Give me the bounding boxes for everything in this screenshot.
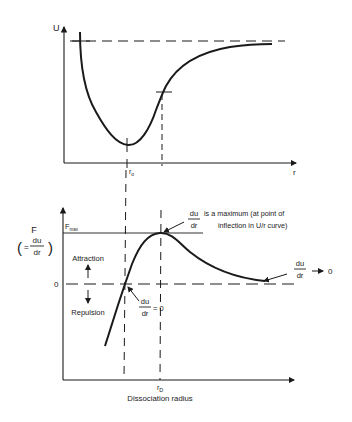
force-chart: F ( = du dr ) Fmax 0 Attraction Repulsio… xyxy=(17,208,333,403)
zero-force-frac-num: du xyxy=(141,297,149,306)
top-x-axis-label: r xyxy=(293,168,296,177)
potential-energy-chart: U r ro xyxy=(53,23,296,177)
limit-pointer-arrow xyxy=(264,274,287,281)
f-label: F xyxy=(31,225,37,235)
top-y-axis-label: U xyxy=(53,23,60,33)
y-frac-den: dr xyxy=(33,248,40,257)
rd-label: rD xyxy=(157,384,163,393)
y-paren-close: ) xyxy=(48,239,53,256)
r0-label: ro xyxy=(129,168,134,177)
max-frac-den: dr xyxy=(191,221,198,230)
zero-label: 0 xyxy=(54,280,59,289)
limit-value: 0 xyxy=(328,267,333,276)
r0-dashed-guide xyxy=(124,170,126,380)
max-text-line2: inflection in U/r curve) xyxy=(218,221,288,230)
zero-force-frac-den: dr xyxy=(142,309,149,318)
y-frac-num: du xyxy=(33,236,42,245)
max-pointer-arrow xyxy=(164,222,184,232)
zero-force-pointer-arrow xyxy=(128,287,139,301)
attraction-label: Attraction xyxy=(72,254,104,263)
zero-force-eq: = 0 xyxy=(153,304,164,313)
force-curve xyxy=(105,233,265,346)
max-frac-num: du xyxy=(190,209,198,218)
potential-energy-curve xyxy=(80,32,272,145)
max-text-line1: is a maximum (at point of xyxy=(204,209,284,218)
repulsion-label: Repulsion xyxy=(71,308,104,317)
fmax-label: Fmax xyxy=(65,222,79,232)
dissociation-radius-caption: Dissociation radius xyxy=(127,394,193,403)
limit-frac-num: du xyxy=(296,259,304,268)
rd-dashed-guide xyxy=(160,210,161,380)
limit-frac-den: dr xyxy=(297,271,304,280)
y-eq: = xyxy=(24,243,29,252)
y-paren-open: ( xyxy=(17,239,22,256)
interatomic-force-diagram: U r ro F ( = du dr ) xyxy=(0,0,352,422)
